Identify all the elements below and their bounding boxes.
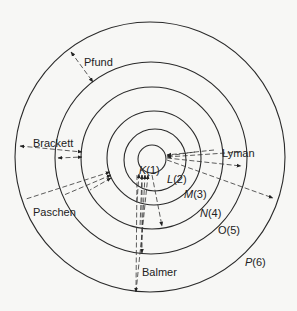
label-m3: M(3) [184,188,207,200]
label-balmer: Balmer [142,266,177,278]
label-paschen: Paschen [33,206,76,218]
label-brackett: Brackett [33,137,73,149]
label-n4: N(4) [200,207,221,219]
bohr-orbit-diagram: Pfund Brackett Paschen Lyman Balmer K(1)… [0,0,297,311]
label-o5: O(5) [218,224,240,236]
label-pfund: Pfund [84,56,113,68]
label-lyman: Lyman [222,147,255,159]
label-k1: K(1) [139,164,160,176]
label-p6: P(6) [245,256,266,268]
paschen-series-arrows [26,172,111,199]
label-l2: L(2) [167,173,187,185]
